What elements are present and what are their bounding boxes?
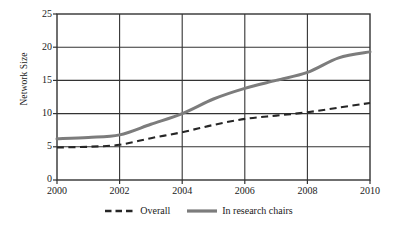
chart-figure: Network Size 25 20 15 10 5 0: [0, 0, 398, 230]
x-tick-label-2010: 2010: [347, 185, 393, 196]
series-line-overall: [57, 103, 370, 147]
legend-item-in-research-chairs: In research chairs: [187, 205, 293, 216]
x-tick-label-2002: 2002: [97, 185, 143, 196]
x-tick-label-2000: 2000: [34, 185, 80, 196]
horizontal-gridlines: [57, 47, 370, 147]
dashed-line-swatch: [105, 206, 135, 216]
x-tick-label-2004: 2004: [159, 185, 205, 196]
chart-legend: Overall In research chairs: [0, 205, 398, 216]
series-line-in-research-chairs: [57, 52, 370, 139]
plot-frame: [57, 14, 370, 180]
solid-line-swatch: [187, 206, 217, 216]
legend-label-in-research-chairs: In research chairs: [222, 205, 293, 216]
legend-label-overall: Overall: [140, 205, 170, 216]
legend-item-overall: Overall: [105, 205, 170, 216]
x-tick-label-2006: 2006: [222, 185, 268, 196]
x-tick-label-2008: 2008: [284, 185, 330, 196]
vertical-gridlines: [120, 14, 308, 180]
